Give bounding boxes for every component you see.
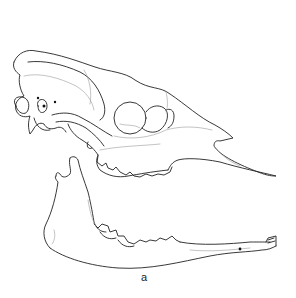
cranium [13,50,276,177]
skull-drawing [0,0,296,298]
sutures [24,70,240,166]
skull-illustration: a [0,0,296,298]
mandible [44,157,276,269]
panel-label: a [138,271,150,283]
